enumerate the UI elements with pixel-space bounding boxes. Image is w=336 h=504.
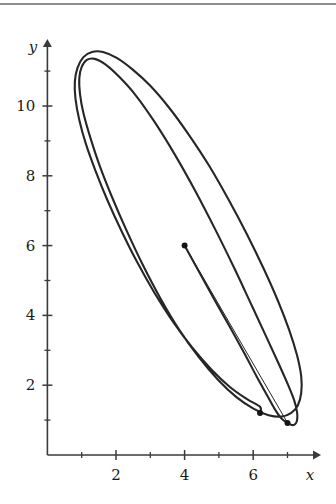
x-axis-label: x xyxy=(306,466,315,484)
x-axis-arrowhead xyxy=(313,451,321,460)
x-tick-label: 6 xyxy=(248,466,258,484)
y-axis-arrowhead xyxy=(43,39,52,47)
x-tick-label: 2 xyxy=(111,466,121,484)
figure-root: 246 246810 x y xyxy=(0,0,336,504)
y-tick-label: 4 xyxy=(26,306,36,324)
x-tick-label: 4 xyxy=(180,466,190,484)
x-axis-tick-labels: 246 xyxy=(111,466,258,484)
y-tick-label: 6 xyxy=(26,237,36,255)
start-point-marker xyxy=(182,243,188,249)
inner-end-point-marker xyxy=(257,410,263,416)
trajectory-curve xyxy=(75,51,302,425)
y-tick-label: 8 xyxy=(26,167,36,185)
y-tick-label: 2 xyxy=(26,376,36,394)
y-tick-label: 10 xyxy=(16,97,35,115)
y-axis-tick-labels: 246810 xyxy=(16,97,35,394)
phase-plane-plot: 246 246810 x y xyxy=(0,0,336,504)
outer-end-point-marker xyxy=(285,420,291,426)
axes-group xyxy=(43,39,321,460)
y-axis-label: y xyxy=(28,38,38,56)
